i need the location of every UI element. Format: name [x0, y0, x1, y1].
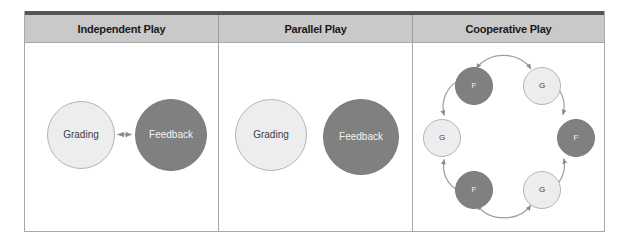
node-f-bottom-left: F — [455, 171, 493, 209]
column-header-independent-play: Independent Play — [25, 15, 219, 42]
column-header-cooperative-play: Cooperative Play — [413, 15, 604, 42]
play-types-comparison-table: Independent Play Parallel Play Cooperati… — [24, 11, 605, 232]
node-feedback-parallel: Feedback — [323, 99, 399, 175]
node-label: Feedback — [339, 132, 383, 142]
node-g-bottom-right: G — [523, 171, 561, 209]
node-label: Grading — [253, 130, 289, 140]
node-g-top-right: G — [523, 67, 561, 105]
cell-independent-play: Grading Feedback — [25, 42, 219, 231]
cell-parallel-play: Grading Feedback — [219, 42, 413, 231]
node-f-right: F — [557, 119, 595, 157]
arc-bottom — [477, 205, 531, 218]
node-label: G — [539, 186, 545, 194]
node-f-top-left: F — [455, 67, 493, 105]
node-label: F — [472, 82, 477, 90]
node-label: F — [472, 186, 477, 194]
node-label: G — [539, 82, 545, 90]
node-label: F — [574, 134, 579, 142]
arc-top — [476, 55, 531, 68]
node-label: Grading — [63, 130, 99, 140]
cell-cooperative-play: F G F G F G — [413, 42, 604, 231]
node-g-left: G — [423, 119, 461, 157]
node-label: Feedback — [149, 130, 193, 140]
table-body-row: Grading Feedback Grading Feedback — [25, 42, 604, 231]
table-header-row: Independent Play Parallel Play Cooperati… — [25, 11, 604, 42]
node-grading-parallel: Grading — [235, 99, 307, 171]
node-grading-independent: Grading — [47, 101, 115, 169]
node-label: G — [439, 134, 445, 142]
node-feedback-independent: Feedback — [135, 99, 207, 171]
column-header-parallel-play: Parallel Play — [219, 15, 413, 42]
